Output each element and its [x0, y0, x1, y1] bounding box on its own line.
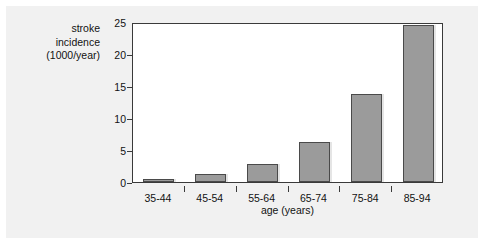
- x-tick-label: 85-94: [391, 192, 443, 204]
- bar: [143, 179, 174, 182]
- y-axis: 0510152025: [102, 16, 132, 192]
- x-tick-mark: [288, 186, 289, 192]
- y-axis-title-line-1: stroke: [16, 22, 100, 36]
- y-tick-label: 0: [120, 178, 126, 188]
- x-tick-label: 75-84: [339, 192, 391, 204]
- x-tick-label: 65-74: [288, 192, 340, 204]
- y-axis-title: stroke incidence (1000/year): [16, 22, 100, 63]
- x-tick-label: 45-54: [184, 192, 236, 204]
- y-axis-title-line-2: incidence: [16, 36, 100, 50]
- y-tick-label: 10: [114, 114, 126, 124]
- bar: [403, 25, 434, 182]
- x-tick-mark: [339, 186, 340, 192]
- bar: [195, 174, 226, 182]
- figure-panel: stroke incidence (1000/year) 0510152025 …: [6, 6, 478, 238]
- x-tick-mark: [184, 186, 185, 192]
- y-tick-label: 25: [114, 18, 126, 28]
- x-tick-label: 35-44: [132, 192, 184, 204]
- x-tick-mark: [236, 186, 237, 192]
- x-tick-mark: [391, 186, 392, 192]
- y-tick-label: 15: [114, 82, 126, 92]
- plot-area: [132, 23, 443, 183]
- bar: [247, 164, 278, 182]
- y-tick-label: 5: [120, 146, 126, 156]
- x-axis-title: age (years): [132, 204, 443, 216]
- bar: [351, 94, 382, 182]
- y-tick-mark: [127, 183, 132, 184]
- y-tick-label: 20: [114, 50, 126, 60]
- x-tick-label: 55-64: [236, 192, 288, 204]
- bar: [299, 142, 330, 182]
- y-axis-title-line-3: (1000/year): [16, 49, 100, 63]
- x-axis: 35-4445-5455-6465-7475-8485-94: [132, 186, 443, 206]
